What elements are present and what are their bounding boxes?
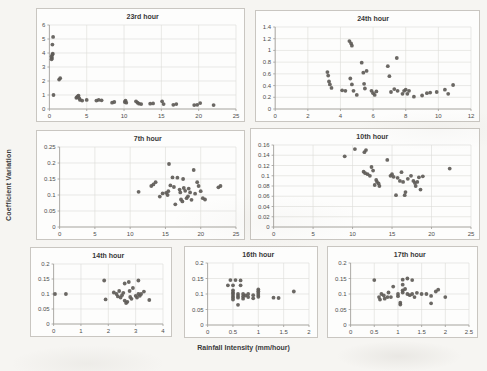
data-point <box>192 168 196 172</box>
x-tick-label: 2 <box>107 328 111 334</box>
data-point <box>396 89 400 93</box>
data-point <box>131 286 135 290</box>
data-point <box>53 292 57 296</box>
data-point <box>443 295 447 299</box>
x-tick-label: 0 <box>48 113 52 119</box>
x-tick-label: 2 <box>307 329 311 335</box>
data-point <box>403 287 407 291</box>
data-point <box>158 195 162 199</box>
data-point <box>363 87 367 91</box>
chart-svg: 02468101200.20.40.60.811.21.424th hour <box>256 11 479 121</box>
y-tick-label: 5 <box>42 36 46 42</box>
data-point <box>428 91 432 95</box>
data-point <box>406 177 410 181</box>
x-tick-label: 5 <box>311 231 315 237</box>
x-tick-label: 25 <box>233 231 240 237</box>
x-tick-label: 1 <box>396 329 400 335</box>
data-point <box>375 90 379 94</box>
y-tick-label: 0.15 <box>335 276 347 282</box>
data-point <box>415 291 419 295</box>
y-tick-label: 0.4 <box>263 83 272 89</box>
data-point <box>212 103 216 107</box>
data-point <box>395 56 399 60</box>
y-tick-label: 0.2 <box>338 260 347 266</box>
x-tick-label: 4 <box>339 113 343 119</box>
y-tick-label: 0.08 <box>258 183 270 189</box>
data-point <box>161 192 165 196</box>
data-point <box>396 176 400 180</box>
y-tick-label: 0.25 <box>44 144 56 150</box>
data-point <box>446 92 450 96</box>
data-point <box>410 278 414 282</box>
x-tick-label: 0 <box>52 328 56 334</box>
chart-panel-17th-hour: 00.511.522.500.050.10.150.217th hour <box>327 246 478 338</box>
data-point <box>348 77 352 81</box>
data-point <box>236 296 240 300</box>
y-tick-label: 0.12 <box>258 163 270 169</box>
y-tick-label: 3 <box>42 64 46 70</box>
data-point <box>436 288 440 292</box>
chart-panel-23rd-hour: 0510152025012345623rd hour <box>36 8 245 122</box>
data-point <box>387 291 391 295</box>
data-point <box>385 158 389 162</box>
data-point <box>162 102 166 106</box>
x-tick-label: 1 <box>257 329 261 335</box>
x-axis-label: Rainfall Intensity (mm/hour) <box>0 344 487 351</box>
data-point <box>203 198 207 202</box>
y-tick-label: 0.1 <box>195 291 204 297</box>
x-tick-label: 8 <box>404 113 408 119</box>
y-tick-label: 0.05 <box>335 307 347 313</box>
data-point <box>241 297 245 301</box>
x-tick-label: 1.5 <box>279 329 288 335</box>
data-point <box>64 292 68 296</box>
data-point <box>365 69 369 73</box>
data-point <box>364 148 368 152</box>
y-tick-label: 0.1 <box>41 291 50 297</box>
data-point <box>178 191 182 195</box>
chart-title: 10th hour <box>356 133 388 140</box>
data-point <box>193 192 197 196</box>
y-tick-label: 0.04 <box>258 204 270 210</box>
data-point <box>373 93 377 97</box>
chart-svg: 051015202500.050.10.150.20.257th hour <box>37 131 244 239</box>
data-point <box>128 289 132 293</box>
data-point <box>197 184 201 188</box>
data-point <box>401 278 405 282</box>
data-point <box>328 83 332 87</box>
data-point <box>173 202 177 206</box>
y-tick-label: 0.8 <box>263 59 272 65</box>
data-point <box>326 74 330 78</box>
data-point <box>413 295 417 299</box>
data-point <box>292 290 296 294</box>
data-point <box>389 90 393 94</box>
x-tick-label: 20 <box>195 113 202 119</box>
data-point <box>154 180 158 184</box>
data-point <box>382 294 386 298</box>
data-point <box>401 283 405 287</box>
data-point <box>166 193 170 197</box>
data-point <box>421 174 425 178</box>
y-tick-label: 2 <box>42 78 46 84</box>
data-point <box>362 82 366 86</box>
data-point <box>360 61 364 65</box>
x-tick-label: 10 <box>121 113 128 119</box>
data-point <box>392 87 396 91</box>
data-point <box>234 278 238 282</box>
y-tick-label: 1.2 <box>263 36 272 42</box>
data-point <box>246 295 250 299</box>
data-point <box>394 193 398 197</box>
data-point <box>80 99 84 103</box>
chart-svg: 0123400.050.10.150.214th hour <box>31 248 171 336</box>
data-point <box>112 100 116 104</box>
data-point <box>407 89 411 93</box>
data-point <box>199 189 203 193</box>
data-point <box>167 162 171 166</box>
data-point <box>389 295 393 299</box>
y-tick-label: 0.05 <box>192 307 204 313</box>
data-point <box>183 189 187 193</box>
data-point <box>239 279 243 283</box>
data-point <box>181 200 185 204</box>
data-point <box>188 191 192 195</box>
data-point <box>414 184 418 188</box>
x-tick-label: 15 <box>389 231 396 237</box>
